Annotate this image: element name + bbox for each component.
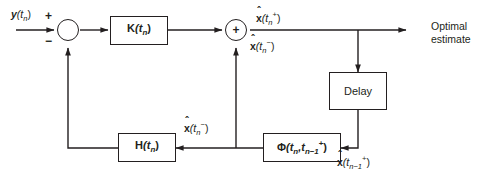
gain-block-label: K(tn) bbox=[127, 23, 151, 37]
transition-block-label: Φ(tn,tn−1+) bbox=[277, 140, 327, 156]
output-label-line1: Optimal bbox=[431, 20, 471, 33]
input-signal-label: y(tn) bbox=[11, 8, 31, 23]
transition-block: Φ(tn,tn−1+) bbox=[263, 133, 341, 162]
input-plus-sign: + bbox=[45, 10, 52, 22]
output-label-line2: estimate bbox=[431, 33, 471, 46]
hat-accent-icon: ˆ bbox=[256, 5, 262, 17]
delay-block-label: Delay bbox=[344, 86, 372, 97]
measurement-block: H(tn) bbox=[118, 133, 176, 162]
delayed-posterior-label: ˆx(tn−1+) bbox=[337, 154, 370, 171]
summing-junction-error bbox=[57, 19, 79, 41]
feedback-minus-sign: − bbox=[45, 35, 52, 47]
posterior-estimate-label: ˆx(tn+) bbox=[256, 10, 280, 27]
kalman-filter-block-diagram: + − + K(tn) Delay H(tn) Φ(tn,tn−1+) y(tn… bbox=[0, 0, 478, 176]
delay-block: Delay bbox=[329, 72, 387, 110]
prior-estimate-label: ˆx(tn−) bbox=[250, 38, 274, 55]
gain-block: K(tn) bbox=[110, 16, 168, 45]
output-label: Optimal estimate bbox=[431, 20, 471, 46]
hat-accent-icon: ˆ bbox=[250, 33, 256, 45]
summing-junction-update: + bbox=[225, 19, 247, 41]
summing-junction-update-label: + bbox=[232, 24, 239, 36]
hat-accent-icon: ˆ bbox=[184, 115, 190, 127]
measurement-block-label: H(tn) bbox=[135, 140, 159, 154]
hat-accent-icon: ˆ bbox=[337, 149, 343, 161]
prior-feedback-label: ˆx(tn−) bbox=[184, 120, 208, 137]
